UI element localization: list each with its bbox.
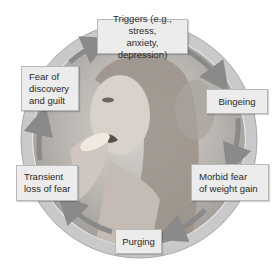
node-purging-label: Purging	[122, 236, 155, 248]
bulimia-cycle-diagram: Triggers (e.g., stress, anxiety, depress…	[0, 0, 275, 277]
node-fear-of-discovery: Fear of discovery and guilt	[21, 66, 79, 111]
node-fear-of-discovery-label: Fear of discovery and guilt	[29, 71, 69, 107]
node-morbid-fear-label: Morbid fear of weight gain	[199, 171, 258, 195]
node-transient-loss-label: Transient loss of fear	[24, 171, 70, 195]
node-morbid-fear: Morbid fear of weight gain	[191, 164, 269, 201]
node-triggers: Triggers (e.g., stress, anxiety, depress…	[97, 19, 188, 54]
node-purging: Purging	[115, 229, 162, 254]
node-bingeing-label: Bingeing	[219, 96, 256, 108]
node-transient-loss: Transient loss of fear	[16, 165, 78, 201]
node-bingeing: Bingeing	[206, 89, 268, 114]
node-triggers-label: Triggers (e.g., stress, anxiety, depress…	[102, 13, 183, 61]
